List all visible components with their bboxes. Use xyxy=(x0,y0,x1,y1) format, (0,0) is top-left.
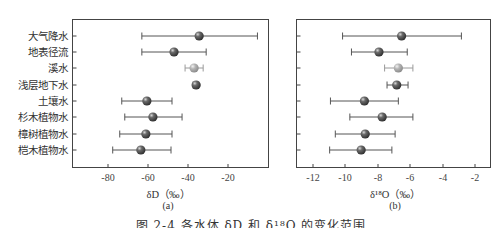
category-labels: 大气降水 地表径流 溪水 浅层地下水 土壤水 杉木植物水 樟树植物水 桤木植物水 xyxy=(0,0,68,170)
x-tick-label: -60 xyxy=(141,172,154,183)
category-label: 桤木植物水 xyxy=(18,144,68,156)
category-label: 土壤水 xyxy=(38,95,68,107)
data-point xyxy=(330,145,392,154)
x-tick-label: -8 xyxy=(374,172,382,183)
panel-a-plot xyxy=(0,0,502,228)
data-point xyxy=(330,96,398,105)
category-label: 浅层地下水 xyxy=(18,79,68,91)
figure: 大气降水 地表径流 溪水 浅层地下水 土壤水 杉木植物水 樟树植物水 桤木植物水 xyxy=(0,0,502,228)
panel-b-frame xyxy=(297,20,491,168)
data-point xyxy=(343,31,462,40)
x-tick-label: -6 xyxy=(406,172,414,183)
data-point xyxy=(387,80,408,89)
x-tick-label: -4 xyxy=(439,172,447,183)
x-tick-label: -80 xyxy=(101,172,114,183)
x-tick-label: -2 xyxy=(471,172,479,183)
data-point xyxy=(351,47,407,56)
category-label: 地表径流 xyxy=(28,46,68,58)
x-tick-label: -12 xyxy=(306,172,319,183)
x-tick-label: -20 xyxy=(221,172,234,183)
data-point xyxy=(350,112,413,121)
data-point xyxy=(125,112,182,121)
data-point xyxy=(113,145,171,154)
data-point xyxy=(335,129,395,138)
panel-tag-a: (a) xyxy=(162,200,173,211)
data-point xyxy=(120,129,172,138)
x-tick-label: -10 xyxy=(338,172,351,183)
category-label: 樟树植物水 xyxy=(18,128,68,140)
data-point xyxy=(122,96,172,105)
x-tick-label: -40 xyxy=(181,172,194,183)
figure-caption: 图 2-4 各水体 δD 和 δ¹⁸O 的变化范围 xyxy=(136,216,367,228)
data-point xyxy=(142,47,206,56)
category-label: 杉木植物水 xyxy=(18,111,68,123)
x-axis-title-b: δ¹⁸O（‰） xyxy=(370,186,420,201)
category-label: 溪水 xyxy=(48,62,68,74)
panel-tag-b: (b) xyxy=(389,200,401,211)
x-axis-title-a: δD（‰） xyxy=(146,186,189,201)
data-point xyxy=(185,63,203,72)
panel-a-frame xyxy=(73,20,269,168)
data-point xyxy=(142,31,258,40)
category-label: 大气降水 xyxy=(28,30,68,42)
data-point xyxy=(192,80,201,89)
data-point xyxy=(385,63,413,72)
